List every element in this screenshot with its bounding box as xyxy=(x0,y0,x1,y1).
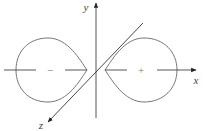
x-axis-label: x xyxy=(193,74,199,86)
z-axis-label: z xyxy=(38,119,44,131)
right-lobe-sign: + xyxy=(138,64,144,76)
orbital-diagram: − + y x z xyxy=(0,0,203,131)
left-lobe-sign: − xyxy=(47,64,53,76)
y-axis-label: y xyxy=(83,1,89,13)
z-axis xyxy=(48,23,143,122)
